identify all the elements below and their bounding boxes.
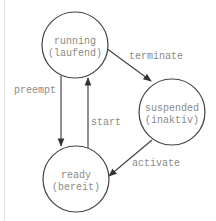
state-sublabel: (bereit) — [52, 182, 100, 193]
state-label: suspended — [145, 103, 199, 114]
state-ready: ready (bereit) — [43, 146, 109, 212]
state-label: ready — [61, 170, 91, 181]
label-terminate: terminate — [129, 51, 183, 62]
label-preempt: preempt — [14, 85, 56, 96]
state-diagram: running (laufend) suspended (inaktiv) re… — [0, 0, 216, 221]
state-suspended: suspended (inaktiv) — [139, 79, 205, 145]
label-activate: activate — [132, 158, 180, 169]
state-sublabel: (laufend) — [48, 48, 102, 59]
state-label: running — [54, 36, 96, 47]
state-sublabel: (inaktiv) — [145, 115, 199, 126]
label-start: start — [91, 117, 121, 128]
state-running: running (laufend) — [42, 12, 108, 78]
